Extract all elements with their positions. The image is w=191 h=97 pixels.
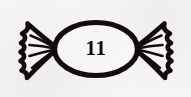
candy-illustration: 11 <box>0 0 191 97</box>
candy-number-label: 11 <box>86 36 107 60</box>
candy-drawing-svg: 11 <box>0 0 191 97</box>
